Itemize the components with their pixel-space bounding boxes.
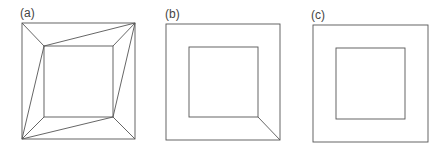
panel-a: (a) (20, 6, 135, 139)
connector-edge (22, 117, 44, 139)
outer-square (313, 25, 428, 142)
connector-edge (22, 23, 44, 46)
connector-edge (22, 117, 113, 139)
inner-square (189, 47, 258, 117)
diagram-canvas: (a) (b) (c) (0, 0, 445, 151)
connector-edge (113, 23, 135, 117)
inner-square (336, 48, 405, 119)
panel-a-label: (a) (20, 6, 35, 20)
inner-square (44, 46, 113, 117)
connector-edge (44, 23, 135, 46)
panel-b: (b) (165, 7, 280, 140)
panel-c: (c) (311, 8, 428, 142)
connector-edge (258, 117, 280, 140)
panel-b-label: (b) (165, 7, 180, 21)
connector-edge (113, 23, 135, 46)
panel-c-label: (c) (311, 8, 325, 22)
connector-edge (22, 46, 44, 139)
connector-edge (113, 117, 135, 139)
